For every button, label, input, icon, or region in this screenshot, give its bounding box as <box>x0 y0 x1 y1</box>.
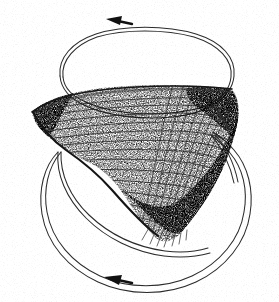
diagram-canvas <box>0 0 279 302</box>
upper-arrow-head <box>106 16 122 25</box>
fan-membrane <box>20 78 255 253</box>
figure-root: Rotating fan-shaped membrane with two ci… <box>0 0 279 302</box>
lower-arrow <box>104 275 132 285</box>
upper-arrow <box>106 16 132 25</box>
lower-arrow-head <box>104 275 122 285</box>
